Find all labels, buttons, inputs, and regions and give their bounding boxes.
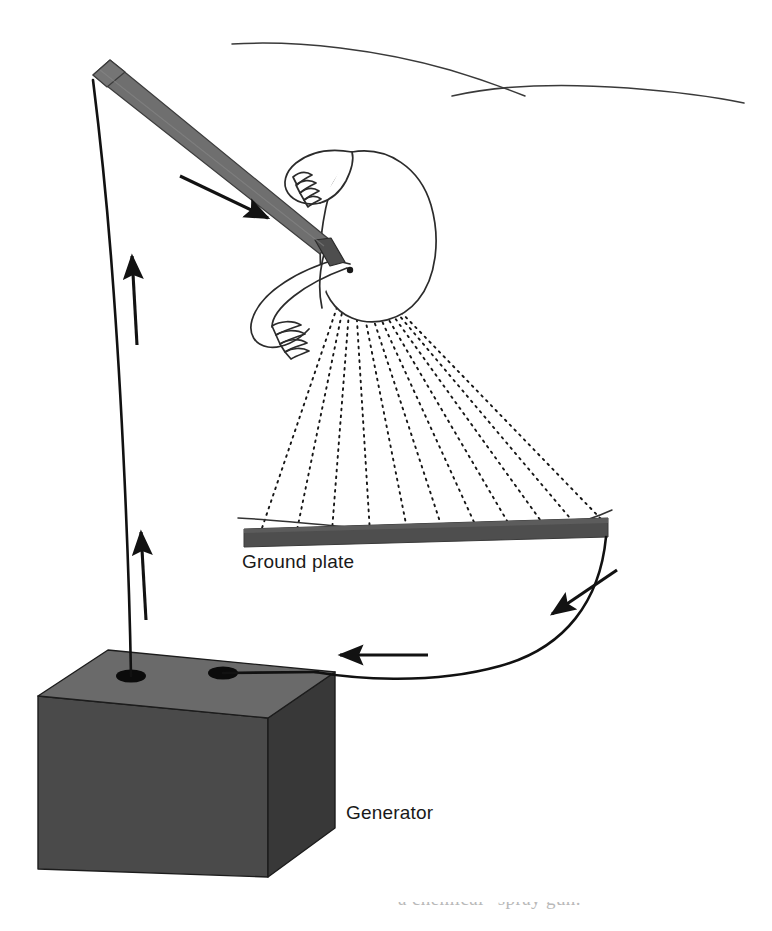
ground-cable-terminal-stub [223,672,318,673]
caption-strip: a chemical “spray gun.” [0,902,772,931]
generator-front-face [38,696,268,877]
hv-cable-arrow-upper [132,256,137,345]
diagram-canvas [0,0,772,931]
nozzle-opening [347,267,353,273]
ground-plate-label: Ground plate [242,552,354,571]
horizon-line-lower [452,85,744,103]
hv-cable-arrow-lower [141,532,146,620]
generator-label: Generator [346,803,433,822]
horizon-line-upper [232,43,525,96]
generator-box [38,650,335,877]
background-horizon-lines [232,43,744,103]
lance-highlight [100,70,324,246]
hv-cable-path [93,80,131,676]
ground-plate-group [238,510,612,547]
high-voltage-cable [93,80,146,676]
figure-root: Ground plate Generator a chemical “spray… [0,0,772,931]
operator-figure [251,150,436,359]
caption-fragment-text: a chemical “spray gun.” [398,902,590,910]
